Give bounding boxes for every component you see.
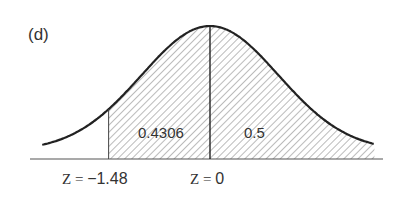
- normal-curve-chart: (d) 0.4306 0.5 Z = −1.48Z = 0: [0, 0, 414, 200]
- chart-title: (d): [28, 25, 49, 44]
- tick-label-0: Z = −1.48: [62, 170, 128, 187]
- region-label-right: 0.5: [244, 124, 265, 141]
- tick-label-1: Z = 0: [190, 170, 224, 187]
- region-label-left: 0.4306: [138, 124, 184, 141]
